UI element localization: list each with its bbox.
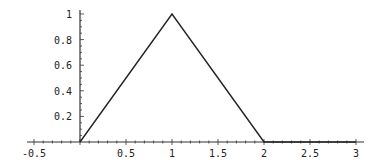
series-line-triangle [80, 14, 356, 142]
triangle-plot: -0.50.511.522.530.20.40.60.81 [0, 0, 378, 166]
y-tick-label: 0.8 [54, 35, 72, 46]
tick-marks [34, 14, 356, 145]
x-tick-label: 1.5 [209, 148, 227, 159]
x-tick-label: 2.5 [301, 148, 319, 159]
y-tick-label: 0.6 [54, 60, 72, 71]
y-tick-label: 1 [66, 9, 72, 20]
axes [27, 10, 364, 142]
data-series [80, 14, 356, 142]
x-tick-label: 0.5 [117, 148, 135, 159]
y-tick-label: 0.4 [54, 86, 72, 97]
x-tick-label: 3 [353, 148, 359, 159]
x-tick-label: 2 [261, 148, 267, 159]
x-tick-label: -0.5 [22, 148, 46, 159]
y-tick-label: 0.2 [54, 111, 72, 122]
tick-labels: -0.50.511.522.530.20.40.60.81 [22, 9, 359, 159]
x-tick-label: 1 [169, 148, 175, 159]
